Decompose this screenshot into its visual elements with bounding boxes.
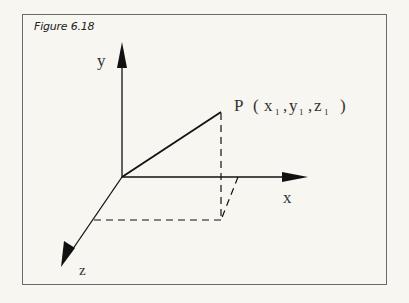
- svg-text:1: 1: [275, 107, 280, 117]
- z-axis: [68, 177, 122, 256]
- x-arrow-head-icon: [282, 172, 308, 182]
- svg-text:): ): [340, 96, 346, 115]
- svg-text:z: z: [314, 96, 322, 115]
- svg-text:,: ,: [308, 96, 312, 115]
- svg-text:1: 1: [324, 107, 329, 117]
- svg-text:,: ,: [283, 96, 287, 115]
- y-axis-label: y: [97, 51, 106, 70]
- projection-z-parallel: [221, 177, 238, 220]
- svg-text:P: P: [234, 96, 243, 115]
- svg-text:x: x: [264, 96, 273, 115]
- x-axis-label: x: [283, 188, 292, 207]
- coordinate-diagram: y x z P ( x 1 , y 1 , z 1 ): [0, 0, 409, 303]
- z-arrow-head-icon: [61, 241, 75, 267]
- y-arrow-head-icon: [117, 42, 127, 68]
- svg-text:1: 1: [299, 107, 304, 117]
- z-axis-label: z: [79, 262, 86, 278]
- svg-text:(: (: [253, 96, 259, 115]
- position-vector: [122, 112, 221, 177]
- point-p-label: P ( x 1 , y 1 , z 1 ): [234, 96, 346, 117]
- svg-text:y: y: [289, 96, 298, 115]
